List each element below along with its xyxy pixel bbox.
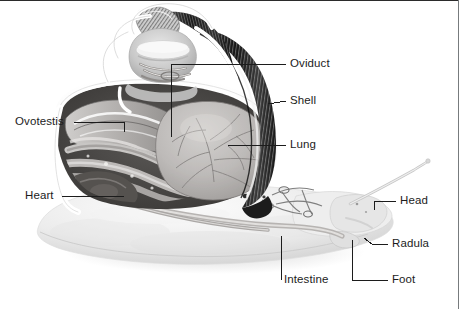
figure-page: Oviduct Shell Lung Head Radula Foot Ovot… (0, 0, 459, 309)
label-oviduct: Oviduct (290, 58, 330, 70)
label-intestine: Intestine (284, 274, 328, 286)
eye-tentacle-tip (426, 159, 430, 163)
snail-anatomy-illustration (0, 0, 459, 309)
label-foot: Foot (392, 274, 415, 286)
label-heart: Heart (25, 190, 54, 202)
label-shell: Shell (290, 95, 316, 107)
label-ovotestis: Ovotestis (15, 116, 64, 128)
label-head: Head (400, 195, 428, 207)
label-lung: Lung (290, 139, 316, 151)
label-radula: Radula (392, 238, 429, 250)
